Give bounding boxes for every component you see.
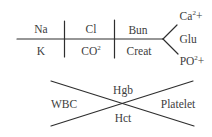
- label-bun: Bun: [128, 24, 147, 36]
- label-platelet: Platelet: [161, 98, 196, 110]
- label-na: Na: [34, 23, 47, 35]
- label-co2: CO2: [81, 45, 100, 57]
- label-hct: Hct: [115, 112, 132, 124]
- label-k: K: [37, 45, 45, 57]
- label-wbc: WBC: [51, 98, 77, 110]
- label-cl: Cl: [86, 23, 97, 35]
- label-calcium: Ca2+: [180, 10, 203, 22]
- bmp-branch-up: [163, 25, 177, 39]
- label-phosphate: PO2+: [180, 55, 205, 67]
- bmp-branch-down: [163, 39, 178, 54]
- label-hgb: Hgb: [113, 84, 133, 96]
- label-creat: Creat: [127, 45, 152, 57]
- label-glucose: Glu: [179, 33, 196, 45]
